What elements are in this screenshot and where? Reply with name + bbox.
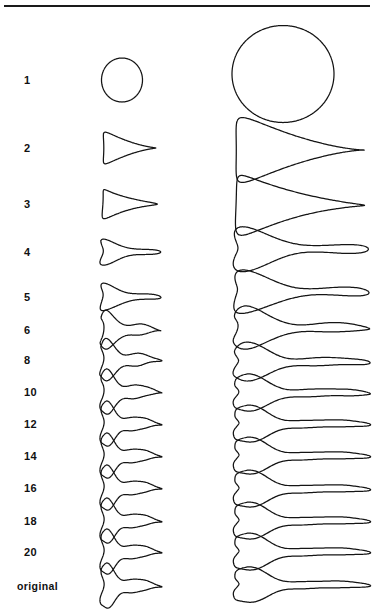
figure-canvas: 1234568101214161820original [0, 0, 374, 611]
large-outline-shape [0, 0, 374, 611]
outline-path [233, 567, 370, 602]
